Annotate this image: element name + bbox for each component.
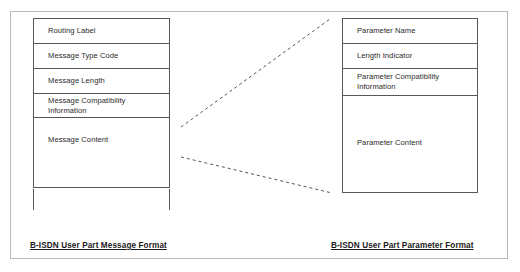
parameter-field-parameter-name: Parameter Name xyxy=(343,19,477,44)
message-field-label: Message Length xyxy=(34,76,109,86)
parameter-field-label: Parameter Name xyxy=(343,26,420,36)
message-field-label: Message Compatibility Information xyxy=(34,96,129,115)
diagram-page: Routing Label Message Type Code Message … xyxy=(0,0,520,272)
message-field-message-type-code: Message Type Code xyxy=(34,44,169,69)
message-field-label: Message Content xyxy=(34,118,112,145)
message-format-continuation-stub xyxy=(33,189,170,210)
parameter-field-parameter-compatibility-information: Parameter Compatibility Information xyxy=(343,69,477,96)
message-format-box: Routing Label Message Type Code Message … xyxy=(33,18,170,188)
parameter-format-box: Parameter Name Length Indicator Paramete… xyxy=(342,18,478,193)
message-field-label: Routing Label xyxy=(34,26,100,36)
parameter-field-label: Parameter Content xyxy=(343,96,426,148)
message-field-message-compatibility-information: Message Compatibility Information xyxy=(34,94,169,118)
parameter-field-label: Length Indicator xyxy=(343,51,416,61)
message-field-message-content: Message Content xyxy=(34,118,169,189)
message-field-message-length: Message Length xyxy=(34,69,169,94)
message-field-routing-label: Routing Label xyxy=(34,19,169,44)
message-format-caption: B-ISDN User Part Message Format xyxy=(30,241,167,250)
parameter-field-label: Parameter Compatibility Information xyxy=(343,72,443,91)
parameter-field-length-indicator: Length Indicator xyxy=(343,44,477,69)
parameter-format-caption: B-ISDN User Part Parameter Format xyxy=(331,241,474,250)
message-field-label: Message Type Code xyxy=(34,51,122,61)
parameter-field-parameter-content: Parameter Content xyxy=(343,96,477,194)
